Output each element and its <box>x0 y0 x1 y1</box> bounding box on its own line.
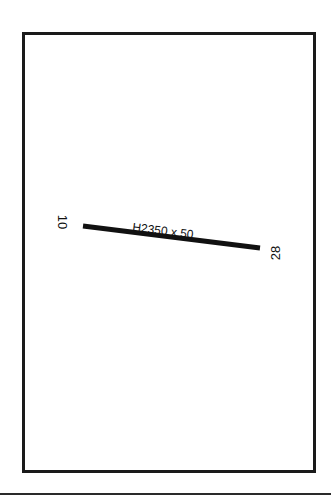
runway-end-10-label: 10 <box>55 215 70 229</box>
runway-diagram: H2350 x 50 10 28 <box>0 0 331 501</box>
runway-end-28-label: 28 <box>268 246 283 260</box>
bottom-divider <box>0 493 331 495</box>
